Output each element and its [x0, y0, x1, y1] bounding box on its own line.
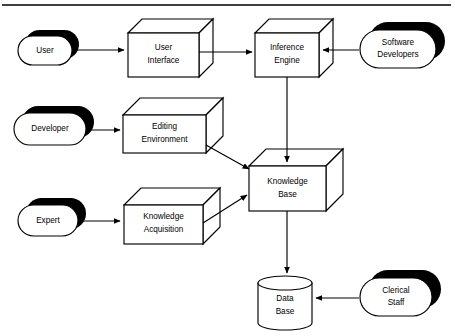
developer-pill — [14, 113, 86, 145]
clerical-staff-pill — [360, 278, 432, 316]
knowledge-acquisition-front-face — [124, 205, 203, 244]
user-interface-top-face — [128, 19, 213, 33]
component-editing-environment[interactable]: Editing Environment — [123, 98, 223, 153]
expert-pill — [18, 205, 78, 236]
editing-environment-front-face — [123, 115, 206, 153]
actor-developer[interactable]: Developer — [14, 106, 94, 145]
actor-expert[interactable]: Expert — [18, 198, 86, 236]
user-pill — [18, 36, 72, 65]
knowledge-base-front-face — [249, 166, 326, 211]
connector-editing-environment-to-knowledge-base — [206, 145, 249, 169]
datastore-data-base[interactable]: Data Base — [258, 276, 312, 330]
inference-engine-front-face — [255, 33, 319, 77]
component-user-interface[interactable]: User Interface — [128, 19, 213, 77]
component-knowledge-acquisition[interactable]: Knowledge Acquisition — [124, 188, 220, 244]
component-knowledge-base[interactable]: Knowledge Base — [249, 149, 343, 211]
actor-clerical-staff[interactable]: Clerical Staff — [360, 270, 441, 316]
data-base-top-ellipse — [258, 276, 312, 290]
component-inference-engine[interactable]: Inference Engine — [255, 19, 333, 77]
actor-software-developers[interactable]: Software Developers — [360, 22, 445, 68]
user-interface-front-face — [128, 33, 199, 77]
expert-system-diagram: User Software Developers Developer Exper… — [0, 0, 455, 336]
actor-user[interactable]: User — [18, 30, 79, 65]
software-developers-pill — [360, 30, 436, 68]
expert-system-diagram-root: User Software Developers Developer Exper… — [0, 0, 455, 336]
